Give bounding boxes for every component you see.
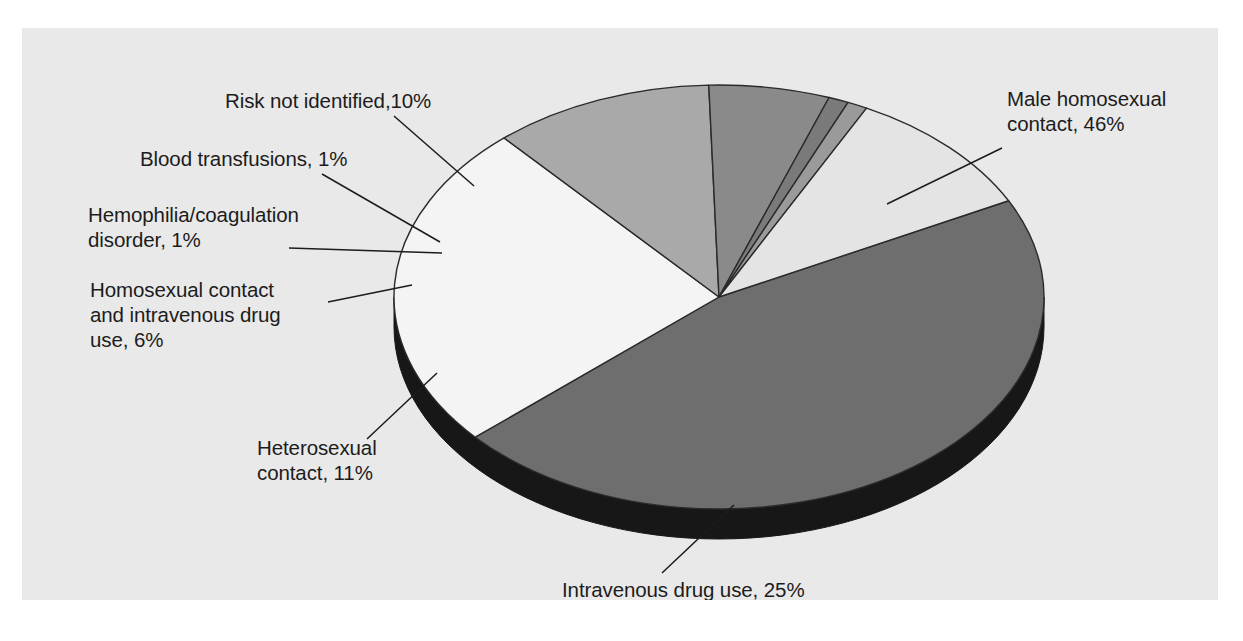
slice-label-heterosexual-contact: Heterosexual contact, 11% (257, 435, 377, 485)
slice-label-male-homosexual-contact: Male homosexual contact, 46% (1007, 86, 1166, 136)
slice-label-risk-not-identified: Risk not identified,10% (225, 88, 431, 113)
slice-label-blood-transfusions: Blood transfusions, 1% (140, 146, 347, 171)
pie-slices (394, 85, 1044, 509)
slice-label-homosexual-contact-and-iv-drug-use: Homosexual contact and intravenous drug … (90, 277, 281, 352)
leader-line-blood-transfusions (322, 174, 440, 242)
slice-label-intravenous-drug-use: Intravenous drug use, 25% (562, 577, 805, 600)
leader-line-risk-not-identified (394, 116, 474, 186)
slice-label-hemophilia-coagulation-disorder: Hemophilia/coagulation disorder, 1% (88, 202, 299, 252)
figure-page: Male homosexual contact, 46% Intravenous… (0, 0, 1243, 641)
cropped-title-fragment (22, 0, 622, 3)
chart-panel: Male homosexual contact, 46% Intravenous… (22, 28, 1218, 600)
